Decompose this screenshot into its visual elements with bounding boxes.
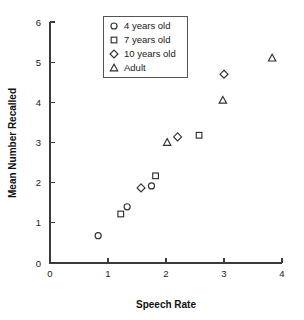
legend-label: Adult — [124, 62, 146, 73]
data-point-square — [118, 211, 124, 217]
legend-label: 4 years old — [124, 20, 170, 31]
x-tick-label: 3 — [221, 268, 226, 279]
data-point-diamond — [137, 184, 145, 192]
y-tick-label: 2 — [36, 177, 41, 188]
y-tick-label: 3 — [36, 137, 41, 148]
legend-label: 7 years old — [124, 34, 170, 45]
plot-area: 012340123456 4 years old7 years old10 ye… — [0, 0, 304, 320]
x-tick-label: 4 — [279, 268, 284, 279]
y-tick-label: 5 — [36, 57, 41, 68]
data-point-diamond — [220, 70, 228, 78]
x-tick-label: 0 — [47, 268, 52, 279]
data-point-circle — [124, 204, 130, 210]
y-axis-title: Mean Number Recalled — [7, 88, 18, 198]
data-point-triangle — [268, 54, 275, 61]
data-point-triangle — [219, 96, 226, 103]
legend-label: 10 years old — [124, 48, 176, 59]
y-tick-label: 4 — [36, 97, 41, 108]
data-point-circle — [148, 183, 154, 189]
y-tick-label: 1 — [36, 217, 41, 228]
y-tick-label: 6 — [36, 17, 41, 28]
data-point-triangle — [163, 139, 170, 146]
scatter-chart: 012340123456 4 years old7 years old10 ye… — [0, 0, 304, 320]
data-point-circle — [95, 233, 101, 239]
series-diamond — [137, 70, 228, 192]
series-circle — [95, 183, 154, 239]
data-point-square — [196, 132, 202, 138]
data-point-diamond — [174, 133, 182, 141]
series-square — [118, 132, 202, 216]
data-points — [95, 54, 276, 238]
x-axis-title: Speech Rate — [136, 299, 196, 310]
x-tick-label: 1 — [105, 268, 110, 279]
data-point-square — [153, 173, 159, 179]
chart-legend: 4 years old7 years old10 years oldAdult — [103, 16, 187, 77]
y-tick-label: 0 — [36, 258, 41, 269]
x-tick-label: 2 — [163, 268, 168, 279]
